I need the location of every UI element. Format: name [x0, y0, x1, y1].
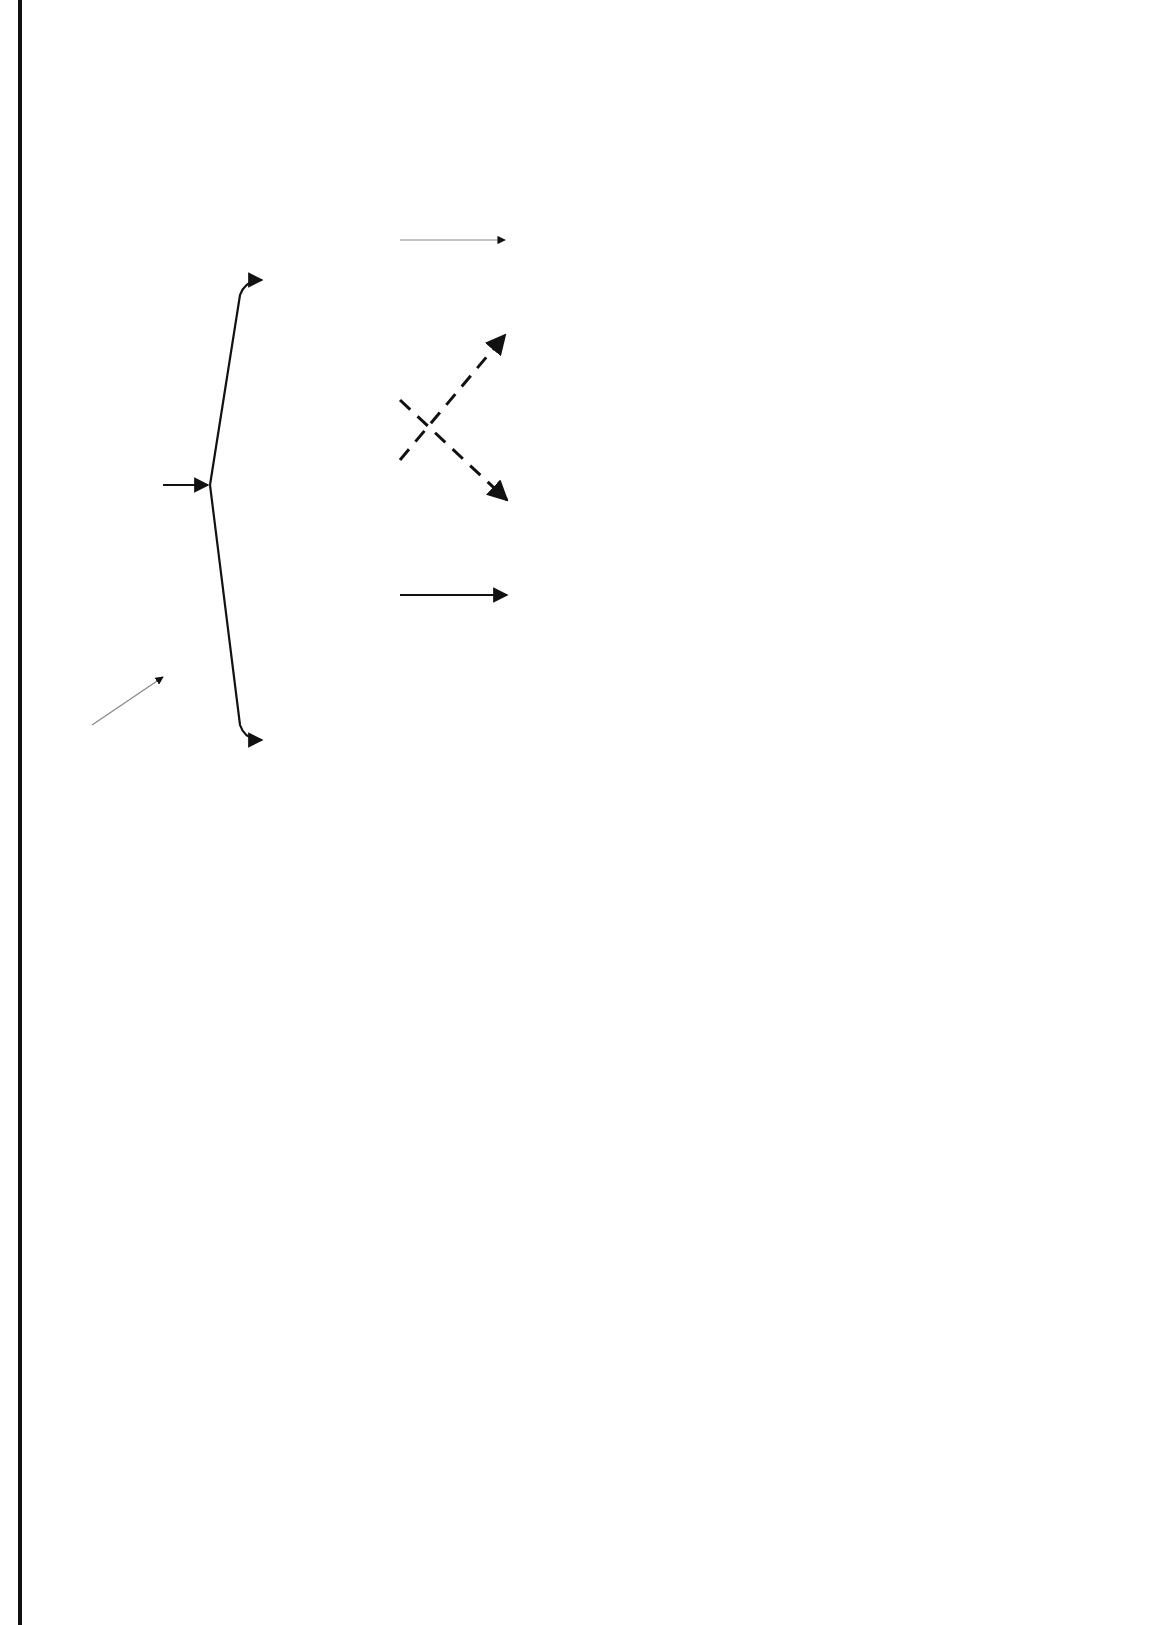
connector-lines: [0, 0, 1152, 1625]
flowchart-canvas: [0, 0, 1152, 1625]
